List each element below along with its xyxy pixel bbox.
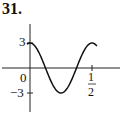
x-label-den: 2 bbox=[88, 86, 94, 98]
cosine-graph bbox=[0, 0, 123, 118]
origin-label: 0 bbox=[20, 71, 27, 84]
y-label-neg3: −3 bbox=[10, 86, 24, 99]
x-label-num: 1 bbox=[88, 71, 94, 83]
y-label-3: 3 bbox=[19, 35, 26, 48]
